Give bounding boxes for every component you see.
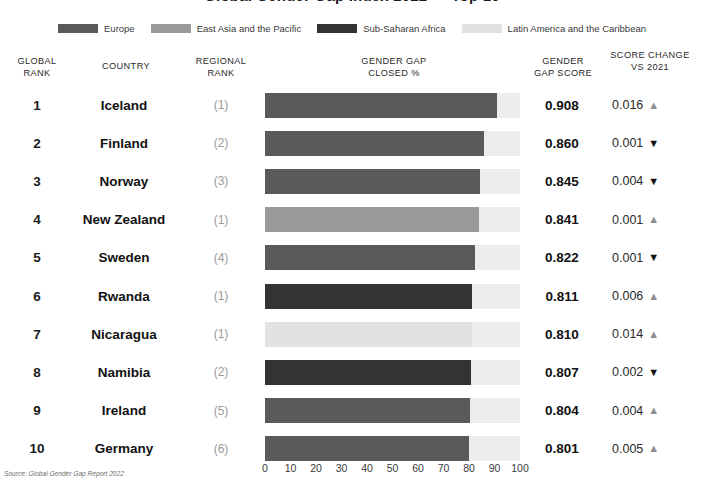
table-header-row: GLOBAL RANK COUNTRY REGIONAL RANK GENDER… <box>0 48 704 82</box>
score-change-value: 0.004 <box>612 404 643 418</box>
regional-rank-value: (2) <box>180 353 262 391</box>
legend-item-latin-america-caribbean: Latin America and the Caribbean <box>462 24 646 34</box>
chart-title-text: Global Gender Gap Index 2022 — Top 10 <box>204 0 500 4</box>
arrow-down-icon: ▼ <box>648 138 659 149</box>
table-body: 1Iceland(1)0.9080.016▲2Finland(2)0.8600.… <box>0 86 704 468</box>
gender-gap-score-value: 0.811 <box>524 277 600 315</box>
arrow-up-icon: ▲ <box>648 291 659 302</box>
country-name: Finland <box>70 124 178 162</box>
gender-gap-bar-cell <box>265 277 520 315</box>
bar-track <box>265 436 520 461</box>
global-rank-value: 3 <box>2 162 72 200</box>
regional-rank-value: (1) <box>180 86 262 124</box>
bar-fill-europe <box>265 169 480 194</box>
source-note: Source: Global Gender Gap Report 2022 <box>4 470 124 477</box>
gender-gap-score-value: 0.841 <box>524 201 600 239</box>
gender-gap-bar-cell <box>265 392 520 430</box>
gender-gap-bar-cell <box>265 239 520 277</box>
column-header-regional-rank-line2: RANK <box>180 68 262 80</box>
gender-gap-score-value: 0.845 <box>524 162 600 200</box>
legend-item-sub-saharan-africa: Sub-Saharan Africa <box>317 24 445 34</box>
global-rank-value: 7 <box>2 315 72 353</box>
score-change-value: 0.005 <box>612 442 643 456</box>
gender-gap-bar-cell <box>265 353 520 391</box>
gender-gap-score-value: 0.908 <box>524 86 600 124</box>
bar-track <box>265 131 520 156</box>
score-change-cell: 0.002▼ <box>604 353 704 391</box>
country-name: Sweden <box>70 239 178 277</box>
axis-tick-label: 20 <box>310 462 322 474</box>
regional-rank-value: (1) <box>180 315 262 353</box>
legend-item-east-asia-pacific: East Asia and the Pacific <box>151 24 302 34</box>
axis-tick-label: 80 <box>463 462 475 474</box>
gender-gap-score-value: 0.810 <box>524 315 600 353</box>
score-change-value: 0.001 <box>612 251 643 265</box>
table-row: 3Norway(3)0.8450.004▼ <box>0 162 704 200</box>
bar-fill-europe <box>265 398 470 423</box>
arrow-up-icon: ▲ <box>648 100 659 111</box>
table-row: 5Sweden(4)0.8220.001▼ <box>0 239 704 277</box>
column-header-global-rank-line1: GLOBAL <box>2 56 72 68</box>
arrow-down-icon: ▼ <box>648 367 659 378</box>
global-rank-value: 9 <box>2 392 72 430</box>
column-header-score-change-line2: VS 2021 <box>600 62 700 74</box>
score-change-value: 0.002 <box>612 365 643 379</box>
regional-rank-value: (6) <box>180 430 262 468</box>
score-change-value: 0.001 <box>612 213 643 227</box>
table-row: 1Iceland(1)0.9080.016▲ <box>0 86 704 124</box>
score-change-cell: 0.001▲ <box>604 201 704 239</box>
axis-tick-label: 40 <box>361 462 373 474</box>
score-change-value: 0.014 <box>612 327 643 341</box>
legend-label-latin-america-caribbean: Latin America and the Caribbean <box>508 24 646 34</box>
arrow-down-icon: ▼ <box>648 176 659 187</box>
column-header-gender-gap-score: GENDER GAP SCORE <box>528 56 598 79</box>
axis-tick-label: 10 <box>285 462 297 474</box>
bar-fill-europe <box>265 245 475 270</box>
gender-gap-bar-cell <box>265 162 520 200</box>
x-axis: 0102030405060708090100 <box>265 462 520 478</box>
table-row: 8Namibia(2)0.8070.002▼ <box>0 353 704 391</box>
arrow-up-icon: ▲ <box>648 443 659 454</box>
column-header-score-change-line1: SCORE CHANGE <box>600 50 700 62</box>
country-name: Norway <box>70 162 178 200</box>
regional-rank-value: (4) <box>180 239 262 277</box>
gender-gap-score-value: 0.807 <box>524 353 600 391</box>
column-header-score-line2: GAP SCORE <box>528 68 598 80</box>
legend-label-europe: Europe <box>104 24 135 34</box>
score-change-cell: 0.004▲ <box>604 392 704 430</box>
column-header-gender-gap-line1: GENDER GAP <box>266 56 522 68</box>
country-name: Iceland <box>70 86 178 124</box>
global-rank-value: 2 <box>2 124 72 162</box>
regional-rank-value: (1) <box>180 201 262 239</box>
bar-track <box>265 93 520 118</box>
gender-gap-bar-cell <box>265 315 520 353</box>
arrow-up-icon: ▲ <box>648 214 659 225</box>
country-name: Germany <box>70 430 178 468</box>
score-change-value: 0.001 <box>612 136 643 150</box>
legend-label-east-asia-pacific: East Asia and the Pacific <box>197 24 302 34</box>
column-header-global-rank-line2: RANK <box>2 68 72 80</box>
gender-gap-score-value: 0.860 <box>524 124 600 162</box>
column-header-country: COUNTRY <box>76 61 176 73</box>
column-header-global-rank: GLOBAL RANK <box>2 56 72 79</box>
score-change-cell: 0.004▼ <box>604 162 704 200</box>
arrow-up-icon: ▲ <box>648 405 659 416</box>
gender-gap-score-value: 0.804 <box>524 392 600 430</box>
global-rank-value: 8 <box>2 353 72 391</box>
column-header-score-change: SCORE CHANGE VS 2021 <box>600 50 700 73</box>
table-row: 6Rwanda(1)0.8110.006▲ <box>0 277 704 315</box>
score-change-value: 0.004 <box>612 174 643 188</box>
global-rank-value: 1 <box>2 86 72 124</box>
bar-fill-europe <box>265 93 497 118</box>
score-change-value: 0.006 <box>612 289 643 303</box>
arrow-up-icon: ▲ <box>648 329 659 340</box>
gender-gap-score-value: 0.801 <box>524 430 600 468</box>
bar-track <box>265 169 520 194</box>
regional-rank-value: (5) <box>180 392 262 430</box>
bar-fill-east-asia-pacific <box>265 207 479 232</box>
score-change-cell: 0.006▲ <box>604 277 704 315</box>
bar-track <box>265 284 520 309</box>
bar-track <box>265 360 520 385</box>
arrow-down-icon: ▼ <box>648 252 659 263</box>
legend-swatch-europe <box>58 24 98 33</box>
